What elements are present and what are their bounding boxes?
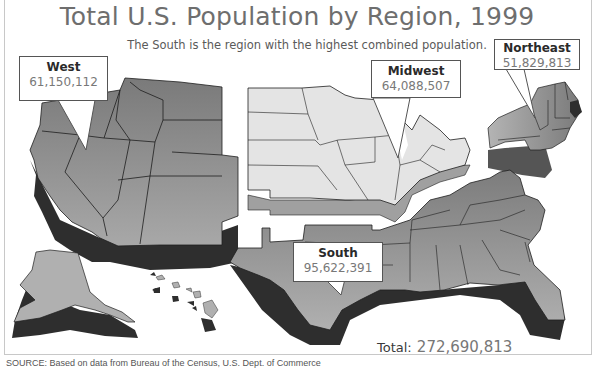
callout-south: South 95,622,391 [293,242,383,282]
region-name: South [294,246,382,261]
region-name: Midwest [372,64,460,79]
hawaii [150,272,218,332]
region-population: 51,829,813 [495,56,579,70]
callout-midwest: Midwest 64,088,507 [371,60,461,98]
region-population: 64,088,507 [372,79,460,93]
source-note: SOURCE: Based on data from Bureau of the… [6,358,321,368]
map-title: Total U.S. Population by Region, 1999 [0,2,594,31]
total-population: Total: 272,690,813 [377,337,512,356]
total-value: 272,690,813 [417,338,512,356]
region-name: West [20,60,107,75]
total-label: Total: [377,340,412,355]
region-name: Northeast [495,41,579,56]
callout-west: West 61,150,112 [19,56,108,101]
region-population: 95,622,391 [294,261,382,275]
region-population: 61,150,112 [20,75,107,89]
callout-northeast: Northeast 51,829,813 [494,39,580,70]
west-region [30,78,238,270]
northeast-region [488,82,582,178]
